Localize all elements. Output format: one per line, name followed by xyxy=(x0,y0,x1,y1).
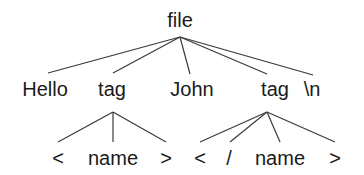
edge-root-4 xyxy=(180,37,313,75)
edge-tag-close-3 xyxy=(267,112,335,142)
parse-tree-diagram: file Hello tag John tag \n < name > < / … xyxy=(0,0,364,175)
node-tag-open: tag xyxy=(98,78,126,100)
node-tag-close: tag xyxy=(261,78,289,100)
edge-root-2 xyxy=(180,37,190,74)
node-newline: \n xyxy=(304,78,321,100)
leaf-gt-close: > xyxy=(329,147,341,169)
edge-root-3 xyxy=(180,37,267,74)
tree-labels: file Hello tag John tag \n < name > < / … xyxy=(22,9,341,169)
leaf-name-close: name xyxy=(255,147,305,169)
edge-tag-open-0 xyxy=(58,112,113,142)
edge-tag-close-1 xyxy=(230,112,267,142)
edge-root-1 xyxy=(113,37,180,73)
leaf-name-open: name xyxy=(88,147,138,169)
node-john: John xyxy=(170,78,213,100)
leaf-lt-open: < xyxy=(52,147,64,169)
leaf-slash-close: / xyxy=(226,147,232,169)
edge-tag-open-2 xyxy=(113,112,166,142)
edge-root-0 xyxy=(48,37,180,73)
edge-tag-close-0 xyxy=(200,112,267,142)
root-node-file: file xyxy=(167,9,193,31)
leaf-lt-close: < xyxy=(194,147,206,169)
node-hello: Hello xyxy=(22,78,68,100)
leaf-gt-open: > xyxy=(160,147,172,169)
